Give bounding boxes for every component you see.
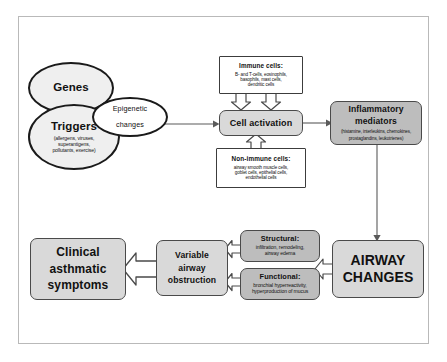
node-airway-changes[interactable]: AIRWAY CHANGES [332, 240, 424, 298]
node-functional-label: Functional: [260, 273, 301, 282]
node-airway-changes-line1: AIRWAY [350, 252, 405, 269]
node-inflammatory-mediators-line1: Inflammatory [348, 104, 403, 115]
node-inflammatory-mediators-detail-1: (histamine, interleukins, chemokines, [341, 129, 411, 134]
node-cell-activation[interactable]: Cell activation [219, 110, 303, 136]
node-immune-cells-detail-3: dendritic cells [248, 82, 274, 87]
node-immune-cells-label: Immune cells: [239, 62, 283, 70]
node-functional-detail-2: hyperproduction of mucus [252, 289, 308, 295]
node-clinical-symptoms-line2: asthmatic [50, 261, 107, 278]
node-cell-activation-label: Cell activation [230, 118, 293, 129]
node-triggers-label: Triggers [51, 120, 97, 134]
node-triggers-detail-3: pollutants, exercise) [52, 148, 95, 154]
node-functional[interactable]: Functional: bronchial hyperreactivity, h… [240, 268, 320, 300]
node-variable-airway-obstruction[interactable]: Variable airway obstruction [156, 240, 228, 296]
node-epigenetic-line1: Epigenetic [113, 105, 148, 113]
node-inflammatory-mediators-line2: mediators [355, 116, 397, 127]
node-inflammatory-mediators-detail-2: prostaglandins, leukotrienes) [349, 136, 404, 141]
node-structural-detail-2: airway edema [265, 251, 296, 257]
node-non-immune-cells[interactable]: Non-immune cells: airway smooth muscle c… [216, 148, 306, 188]
node-variable-obstruction-line3: obstruction [168, 274, 216, 286]
node-structural-label: Structural: [261, 235, 299, 244]
node-non-immune-cells-label: Non-immune cells: [232, 155, 291, 163]
node-inflammatory-mediators[interactable]: Inflammatory mediators (histamine, inter… [330, 101, 422, 145]
node-structural[interactable]: Structural: infiltration, remodeling, ai… [240, 230, 320, 262]
node-immune-cells[interactable]: Immune cells: B- and T-cells, eosinophil… [219, 56, 303, 94]
node-variable-obstruction-line2: airway [178, 262, 205, 274]
node-variable-obstruction-line1: Variable [175, 249, 209, 261]
node-clinical-symptoms-line1: Clinical [56, 244, 99, 261]
diagram-canvas: Genes Triggers (allergens, viruses, supe… [0, 0, 447, 362]
node-clinical-symptoms-line3: symptoms [48, 277, 109, 294]
node-epigenetic-changes[interactable]: Epigenetic changes [92, 97, 168, 137]
node-epigenetic-line2: changes [116, 121, 144, 129]
node-genes-label: Genes [53, 81, 89, 95]
node-non-immune-cells-detail-3: endothelial cells [246, 175, 277, 180]
node-airway-changes-line2: CHANGES [343, 269, 414, 286]
node-clinical-asthmatic-symptoms[interactable]: Clinical asthmatic symptoms [30, 238, 126, 300]
